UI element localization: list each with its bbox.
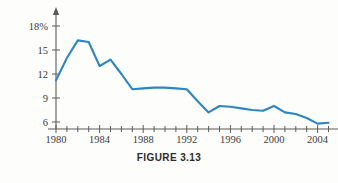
y-tick-label: 15 xyxy=(38,45,49,56)
y-tick-label: 12 xyxy=(38,69,49,80)
x-axis: 1980198419881992199620002004 xyxy=(46,125,338,145)
y-axis-tick-labels: 69121518% xyxy=(29,21,49,128)
y-axis-arrow-icon xyxy=(53,7,59,15)
x-tick-label: 2000 xyxy=(264,134,285,145)
x-axis-tick-labels: 1980198419881992199620002004 xyxy=(46,134,329,145)
y-tick-label: 18% xyxy=(29,21,49,32)
x-tick-label: 1988 xyxy=(133,134,154,145)
y-tick-label: 6 xyxy=(43,117,48,128)
figure-container: 69121518% 1980198419881992199620002004 F… xyxy=(0,0,338,183)
line-chart: 69121518% 1980198419881992199620002004 xyxy=(0,0,338,150)
x-tick-label: 2004 xyxy=(307,134,329,145)
x-tick-label: 1992 xyxy=(176,134,197,145)
figure-caption: FIGURE 3.13 xyxy=(0,152,338,163)
x-tick-label: 1996 xyxy=(220,134,241,145)
x-tick-label: 1980 xyxy=(46,134,67,145)
y-axis: 69121518% xyxy=(29,7,60,129)
x-tick-label: 1984 xyxy=(89,134,111,145)
y-tick-label: 9 xyxy=(43,93,48,104)
chart-plot-area: 69121518% 1980198419881992199620002004 xyxy=(0,0,338,150)
data-series-group xyxy=(56,40,329,123)
data-series-line xyxy=(56,40,329,123)
